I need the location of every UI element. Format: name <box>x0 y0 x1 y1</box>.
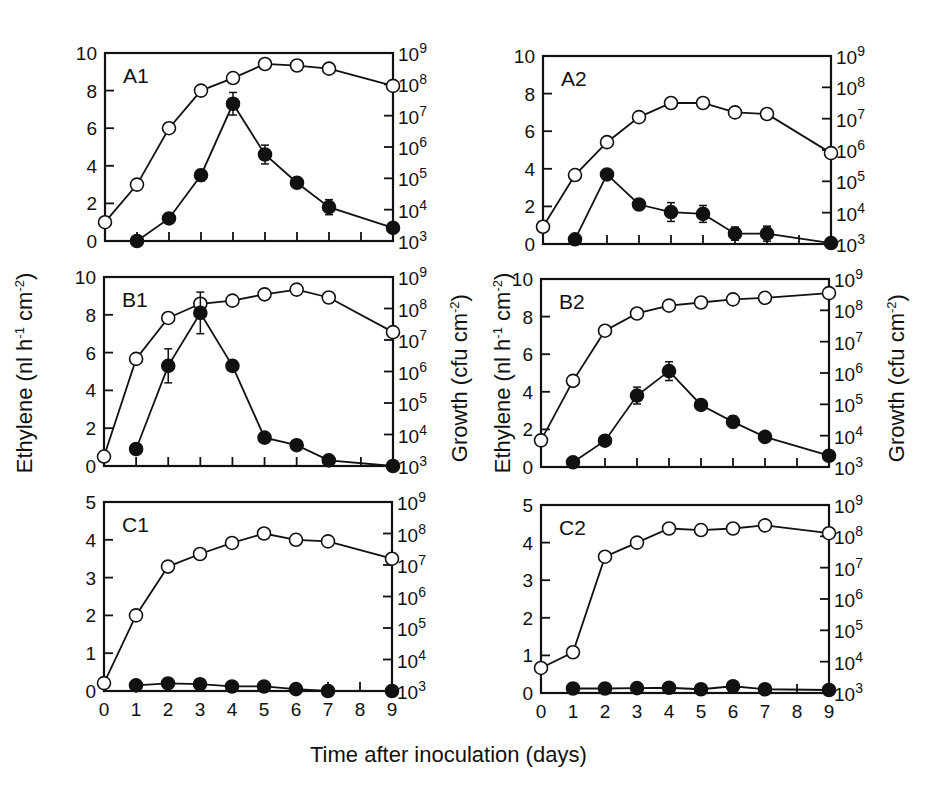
growth-marker <box>323 62 336 75</box>
y2-tick-label: 109 <box>398 40 427 65</box>
y2-tick-label: 108 <box>836 74 865 99</box>
growth-line <box>105 64 393 222</box>
y2-tick-label: 103 <box>834 454 863 479</box>
growth-marker <box>823 287 836 300</box>
x-tick-label: 0 <box>99 699 110 720</box>
panel-a1: 0246810103104105106107108109A1 <box>76 40 427 253</box>
x-tick-label: 2 <box>600 701 611 722</box>
ethylene-marker <box>162 677 175 690</box>
y-tick-label: 2 <box>522 608 533 629</box>
ethylene-marker <box>258 431 271 444</box>
growth-line <box>541 525 829 668</box>
growth-marker <box>387 79 400 92</box>
growth-marker <box>695 524 708 537</box>
growth-marker <box>162 311 175 324</box>
ethylene-marker <box>290 439 303 452</box>
y-tick-label: 4 <box>86 156 97 177</box>
growth-marker <box>825 147 838 160</box>
growth-marker <box>729 106 742 119</box>
panel-label: B1 <box>122 288 148 311</box>
ethylene-marker <box>226 359 239 372</box>
y2-tick-label: 109 <box>834 266 863 291</box>
growth-marker <box>290 533 303 546</box>
y2-tick-label: 106 <box>834 360 863 385</box>
panel-a2: 0246810103104105106107108109A2 <box>514 43 865 256</box>
y2-tick-label: 105 <box>834 617 863 642</box>
growth-marker <box>322 291 335 304</box>
growth-marker <box>823 527 836 540</box>
growth-marker <box>727 293 740 306</box>
y-tick-label: 2 <box>86 193 97 214</box>
y-tick-label: 2 <box>524 196 535 217</box>
y-axis-label-left-ethylene: Ethylene (nl h-1 cm-2) <box>12 283 38 473</box>
x-tick-label: 9 <box>824 701 835 722</box>
growth-marker <box>130 352 143 365</box>
y-tick-label: 0 <box>524 234 535 255</box>
growth-marker <box>663 299 676 312</box>
y-axis-label-right-growth: Growth (cfu cm-2) <box>884 288 910 468</box>
ethylene-marker <box>663 681 676 694</box>
growth-line <box>104 290 393 457</box>
growth-marker <box>386 552 399 565</box>
growth-marker <box>99 216 112 229</box>
x-tick-label: 7 <box>760 701 771 722</box>
x-tick-label: 6 <box>728 701 739 722</box>
ethylene-marker <box>131 235 144 248</box>
growth-marker <box>226 536 239 549</box>
y-tick-label: 5 <box>85 492 96 513</box>
y2-tick-label: 104 <box>398 422 427 447</box>
ethylene-marker <box>322 454 335 467</box>
ethylene-marker <box>226 680 239 693</box>
y2-tick-label: 105 <box>398 390 427 415</box>
x-axis-label: Time after inoculation (days) <box>310 742 587 768</box>
growth-line <box>541 293 829 440</box>
growth-marker <box>665 97 678 110</box>
x-tick-label: 3 <box>195 699 206 720</box>
y-tick-label: 4 <box>524 159 535 180</box>
panel-c2: 0123451031041051061071081090123456789C2 <box>522 492 863 722</box>
y2-tick-label: 108 <box>397 521 426 546</box>
ethylene-marker <box>825 237 838 250</box>
y-tick-label: 6 <box>85 343 96 364</box>
y2-tick-label: 105 <box>397 615 426 640</box>
x-tick-label: 0 <box>536 701 547 722</box>
ethylene-marker <box>194 678 207 691</box>
y2-tick-label: 107 <box>398 327 427 352</box>
panel-label: C2 <box>559 516 586 539</box>
ethylene-marker <box>599 682 612 695</box>
y2-tick-label: 106 <box>834 586 863 611</box>
ethylene-marker <box>633 198 646 211</box>
ethylene-marker <box>665 206 678 219</box>
y-tick-label: 4 <box>85 380 96 401</box>
y-axis-label-mid-growth: Growth (cfu cm-2) <box>447 288 473 468</box>
ethylene-marker <box>761 227 774 240</box>
growth-marker <box>226 294 239 307</box>
growth-line <box>104 534 392 684</box>
ethylene-marker <box>387 221 400 234</box>
y2-tick-label: 107 <box>398 103 427 128</box>
y2-tick-label: 106 <box>397 584 426 609</box>
ethylene-marker <box>697 207 710 220</box>
panel-label: A1 <box>123 64 149 87</box>
x-tick-label: 2 <box>163 699 174 720</box>
y2-tick-label: 104 <box>834 423 863 448</box>
growth-marker <box>98 677 111 690</box>
x-tick-label: 3 <box>632 701 643 722</box>
growth-marker <box>599 550 612 563</box>
growth-marker <box>695 296 708 309</box>
ethylene-marker <box>322 685 335 698</box>
growth-marker <box>697 97 710 110</box>
y-tick-label: 10 <box>75 267 96 288</box>
y2-tick-label: 106 <box>398 359 427 384</box>
panel-b1: 0246810103104105106107108109B1 <box>75 264 427 478</box>
ethylene-marker <box>567 682 580 695</box>
growth-marker <box>567 646 580 659</box>
y-tick-label: 3 <box>85 568 96 589</box>
growth-marker <box>663 522 676 535</box>
x-tick-label: 5 <box>259 699 270 720</box>
ethylene-marker <box>290 683 303 696</box>
x-tick-label: 5 <box>696 701 707 722</box>
growth-marker <box>258 527 271 540</box>
y2-tick-label: 108 <box>398 71 427 96</box>
ethylene-marker <box>729 227 742 240</box>
